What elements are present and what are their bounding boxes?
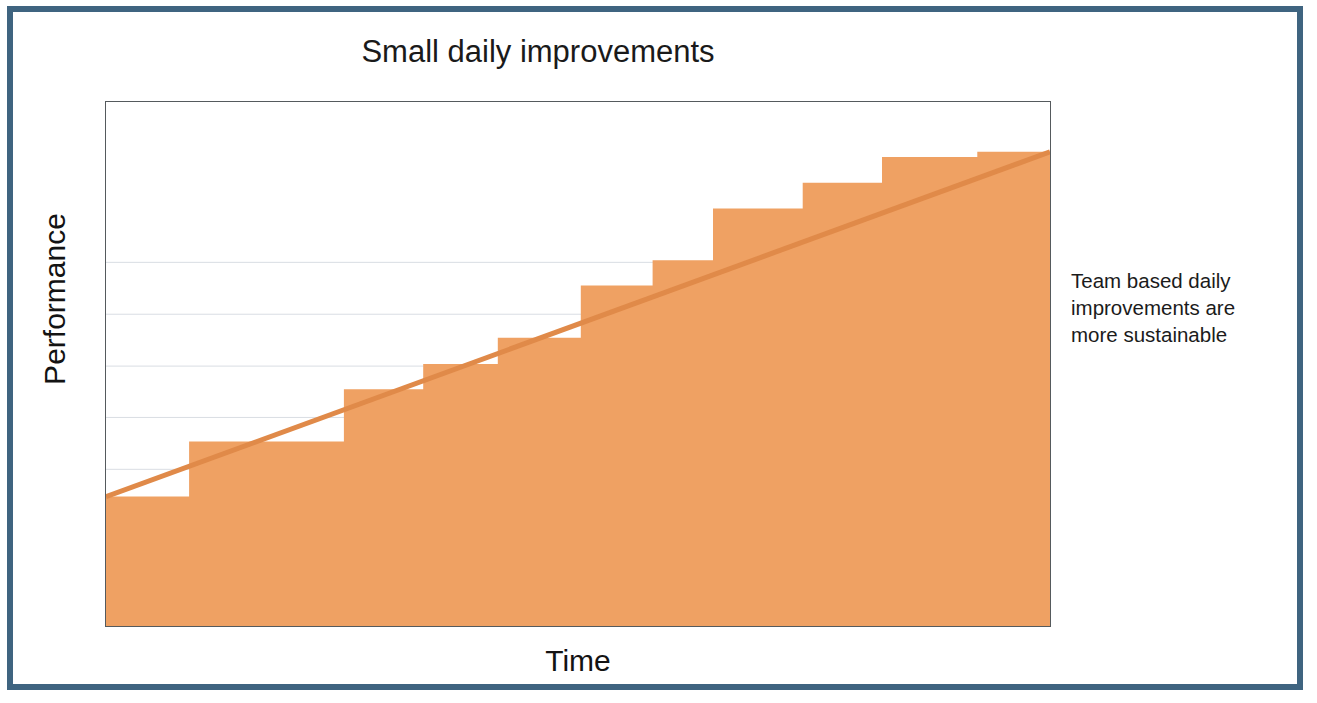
step-area-fill [106,152,1050,626]
chart-plot-area [105,101,1051,627]
annotation-line-3: more sustainable [1071,321,1286,348]
chart-annotation: Team based daily improvements are more s… [1071,267,1286,348]
annotation-line-1: Team based daily [1071,267,1286,294]
chart-svg [106,102,1050,626]
y-axis-label: Performance [38,199,72,399]
chart-step-area [106,152,1050,626]
annotation-line-2: improvements are [1071,294,1286,321]
chart-title: Small daily improvements [13,34,1063,70]
x-axis-label: Time [105,644,1051,678]
slide-frame: Small daily improvements Performance Tim… [7,6,1303,690]
slide-canvas: Small daily improvements Performance Tim… [0,0,1317,703]
